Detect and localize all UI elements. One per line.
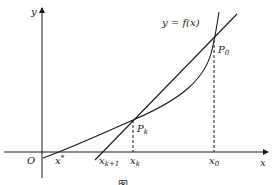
function-curve: [43, 12, 219, 158]
tangent-line: [95, 14, 237, 160]
figure-caption: 图: [118, 180, 128, 185]
root-label: x*: [55, 154, 65, 166]
xk-label: xk: [130, 155, 140, 168]
x-axis-label: x: [260, 157, 266, 168]
xk1-label: xk+1: [99, 155, 119, 168]
x0-label: x0: [209, 155, 220, 168]
origin-label: O: [27, 155, 35, 166]
curve-label: y = f(x): [161, 17, 200, 28]
pk-label: Pk: [136, 123, 148, 136]
newton-method-diagram: y x O y = f(x) P0 Pk x* xk+1 xk x0 图: [0, 0, 272, 185]
p0-label: P0: [217, 44, 230, 57]
y-axis-label: y: [30, 6, 37, 17]
